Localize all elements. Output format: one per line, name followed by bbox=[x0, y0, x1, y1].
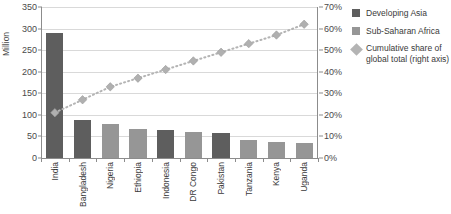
y-axis-tick-label-left: 300 bbox=[22, 24, 37, 33]
tick-mark bbox=[319, 93, 323, 94]
x-axis-category-label: Indonesia bbox=[161, 162, 171, 199]
legend-item-label: Sub-Saharan Africa bbox=[366, 26, 440, 37]
x-axis-category-label: Ethiopia bbox=[133, 162, 143, 193]
x-axis-category-label: Uganda bbox=[299, 162, 309, 192]
tick-mark bbox=[319, 136, 323, 137]
y-axis-tick-label-left: 250 bbox=[22, 46, 37, 55]
y-axis-left-ticks: 050100150200250300350 bbox=[9, 7, 37, 159]
y-axis-tick-label-left: 100 bbox=[22, 110, 37, 119]
tick-mark bbox=[319, 71, 323, 72]
x-axis-category-label: Tanzania bbox=[244, 162, 254, 196]
cumulative-data-point bbox=[51, 109, 59, 117]
cumulative-data-point bbox=[161, 65, 169, 73]
tick-mark bbox=[319, 114, 323, 115]
tick-mark bbox=[319, 50, 323, 51]
y-axis-tick-label-left: 0 bbox=[32, 154, 37, 163]
y-axis-tick-label-left: 50 bbox=[27, 132, 37, 141]
tick-mark bbox=[319, 7, 323, 8]
x-axis-category-label: Nigeria bbox=[105, 162, 115, 189]
cumulative-data-point bbox=[189, 57, 197, 65]
y-axis-tick-label-right: 40% bbox=[324, 67, 342, 76]
x-axis-tick-mark bbox=[180, 158, 181, 162]
x-axis-tick-mark bbox=[290, 158, 291, 162]
x-axis-tick-mark bbox=[318, 158, 319, 162]
y-axis-tick-label-left: 150 bbox=[22, 89, 37, 98]
cumulative-data-point bbox=[106, 83, 114, 91]
cumulative-data-point bbox=[245, 39, 253, 47]
y-axis-tick-label-right: 10% bbox=[324, 132, 342, 141]
legend-diamond-icon bbox=[350, 43, 363, 56]
x-axis-tick-mark bbox=[69, 158, 70, 162]
x-axis-category-label: DR Congo bbox=[188, 162, 198, 202]
y-axis-tick-label-right: 60% bbox=[324, 24, 342, 33]
tick-mark bbox=[319, 28, 323, 29]
plot-area bbox=[41, 7, 318, 159]
x-axis-tick-mark bbox=[124, 158, 125, 162]
legend-item-cumulative-share: Cumulative share of global total (right … bbox=[352, 43, 451, 64]
x-axis-category-label: Kenya bbox=[271, 162, 281, 186]
legend-item-developing-asia: Developing Asia bbox=[352, 8, 451, 19]
y-axis-tick-label-left: 350 bbox=[22, 3, 37, 12]
y-axis-tick-label-right: 50% bbox=[324, 46, 342, 55]
x-axis-category-label: India bbox=[50, 162, 60, 180]
y-axis-tick-label-right: 0% bbox=[324, 154, 337, 163]
legend-square-icon bbox=[352, 27, 360, 35]
cumulative-data-point bbox=[300, 20, 308, 28]
legend-item-sub-saharan-africa: Sub-Saharan Africa bbox=[352, 26, 451, 37]
chart-legend: Developing Asia Sub-Saharan Africa Cumul… bbox=[352, 8, 451, 71]
x-axis-tick-mark bbox=[41, 158, 42, 162]
x-axis-tick-mark bbox=[152, 158, 153, 162]
y-axis-tick-label-right: 70% bbox=[324, 3, 342, 12]
y-axis-tick-label-right: 20% bbox=[324, 110, 342, 119]
cumulative-data-point bbox=[134, 74, 142, 82]
x-axis-tick-mark bbox=[235, 158, 236, 162]
cumulative-data-point bbox=[217, 48, 225, 56]
cumulative-data-point bbox=[78, 96, 86, 104]
x-axis-category-label: Bangladesh bbox=[78, 162, 88, 207]
x-axis-category-label: Pakistan bbox=[216, 162, 226, 195]
chart-figure: Million 050100150200250300350 0%10%20%30… bbox=[0, 0, 451, 214]
legend-item-label: Developing Asia bbox=[366, 8, 427, 19]
legend-item-label: Cumulative share of global total (right … bbox=[366, 43, 451, 64]
x-axis-tick-mark bbox=[263, 158, 264, 162]
y-axis-tick-label-left: 200 bbox=[22, 67, 37, 76]
cumulative-data-point bbox=[272, 31, 280, 39]
y-axis-tick-label-right: 30% bbox=[324, 89, 342, 98]
cumulative-line-series bbox=[41, 7, 318, 159]
tick-mark bbox=[319, 158, 323, 159]
x-axis-tick-mark bbox=[207, 158, 208, 162]
legend-square-icon bbox=[352, 9, 360, 17]
cumulative-line bbox=[55, 24, 304, 112]
x-axis-tick-mark bbox=[96, 158, 97, 162]
x-axis-category-labels: IndiaBangladeshNigeriaEthiopiaIndonesiaD… bbox=[41, 162, 318, 214]
